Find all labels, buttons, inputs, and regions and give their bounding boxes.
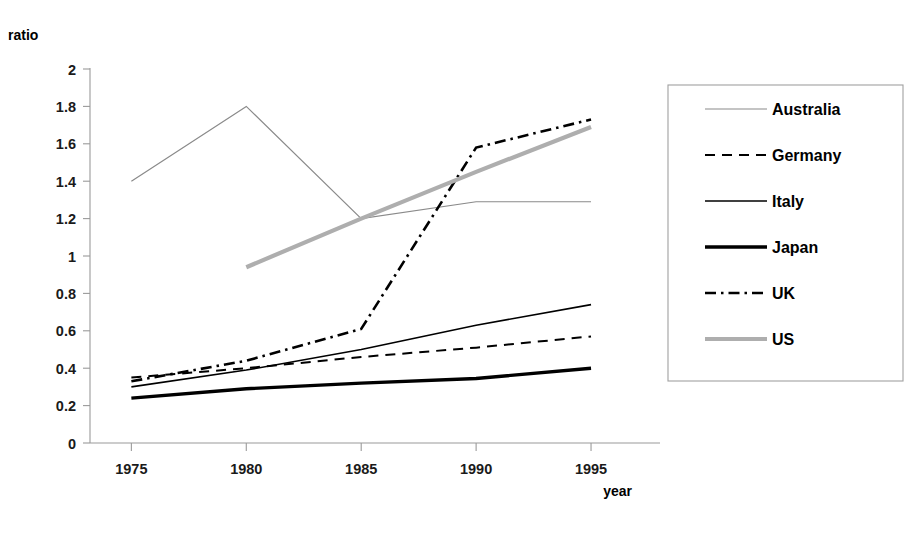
x-axis: 19751980198519901995 [90,443,660,477]
legend-label: Australia [772,101,841,118]
y-tick-label: 0 [68,436,76,452]
y-tick-label: 1.8 [56,99,76,115]
series-layer [131,106,591,398]
series-line-us [246,127,591,267]
y-tick-label: 0.4 [56,361,76,377]
y-tick-label: 1.2 [56,211,76,227]
x-tick-label: 1990 [460,461,492,477]
y-tick-label: 1.4 [56,174,76,190]
x-tick-label: 1985 [345,461,377,477]
y-tick-label: 1.6 [56,136,76,152]
x-axis-title: year [603,483,632,499]
y-tick-label: 1 [68,249,76,265]
legend-label: UK [772,285,796,302]
legend-label: Germany [772,147,841,164]
line-chart: ratio year 00.20.40.60.811.21.41.61.82 1… [0,0,917,536]
y-tick-label: 0.8 [56,286,76,302]
legend-label: Japan [772,239,818,256]
legend-label: Italy [772,193,804,210]
legend-label: US [772,331,795,348]
series-line-australia [131,106,591,218]
y-axis: 00.20.40.60.811.21.41.61.82 [56,62,90,452]
chart-legend[interactable]: AustraliaGermanyItalyJapanUKUS [668,85,903,381]
chart-container: ratio year 00.20.40.60.811.21.41.61.82 1… [0,0,917,536]
y-tick-label: 2 [68,62,76,78]
y-tick-label: 0.2 [56,398,76,414]
x-tick-label: 1980 [230,461,262,477]
y-axis-title: ratio [8,27,38,43]
x-tick-label: 1975 [115,461,147,477]
x-tick-label: 1995 [575,461,607,477]
y-tick-label: 0.6 [56,323,76,339]
series-line-germany [131,336,591,377]
series-line-uk [131,119,591,381]
